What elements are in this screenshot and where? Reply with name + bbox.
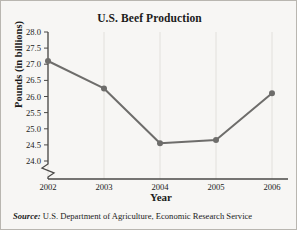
y-tick-label: 26.0 (26, 92, 41, 102)
y-axis-tick-labels: 28.0 27.5 27.0 26.5 26.0 25.5 25.0 24.5 … (26, 27, 41, 166)
source-label: Source: (13, 211, 41, 221)
y-tick-label: 25.5 (26, 108, 41, 118)
chart-figure: U.S. Beef Production Pounds (in billions… (0, 0, 297, 230)
source-text: U.S. Department of Agriculture, Economic… (43, 211, 252, 221)
y-tick-label: 24.0 (26, 156, 41, 166)
data-point-marker (101, 85, 107, 91)
y-tick-label: 27.5 (26, 43, 41, 53)
data-point-marker (213, 137, 219, 143)
y-tick-label: 28.0 (26, 27, 41, 37)
y-tick-label: 25.0 (26, 124, 41, 134)
data-point-marker (157, 140, 163, 146)
data-point-marker (45, 58, 51, 64)
y-axis-break-symbol (42, 161, 54, 179)
y-tick-label: 24.5 (26, 140, 41, 150)
y-tick-label: 27.0 (26, 59, 41, 69)
y-tick-label: 26.5 (26, 75, 41, 85)
x-axis-label: Year (37, 191, 285, 203)
y-axis (42, 32, 54, 179)
data-point-marker (269, 90, 275, 96)
source-note: Source: U.S. Department of Agriculture, … (13, 211, 252, 221)
gridlines-vertical (48, 32, 272, 179)
